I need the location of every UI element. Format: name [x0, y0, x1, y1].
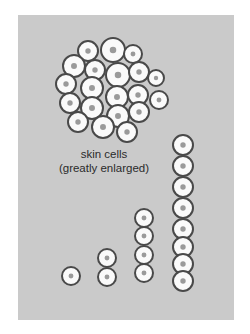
- cluster-cell: [129, 62, 149, 82]
- cell-column-3: [135, 209, 153, 282]
- skin-cell-cluster: [56, 38, 168, 142]
- nucleus-icon: [136, 109, 141, 114]
- nucleus-icon: [100, 124, 106, 130]
- nucleus-icon: [63, 81, 68, 86]
- column-cell: [173, 198, 193, 218]
- nucleus-icon: [131, 52, 136, 57]
- column-cell: [135, 264, 153, 282]
- nucleus-icon: [180, 244, 185, 249]
- nucleus-icon: [135, 92, 140, 97]
- column-cell: [173, 135, 193, 155]
- nucleus-icon: [180, 261, 185, 266]
- nucleus-icon: [110, 47, 116, 53]
- cluster-cell: [117, 122, 137, 142]
- column-cell: [98, 268, 116, 286]
- nucleus-icon: [71, 63, 77, 69]
- column-cell: [173, 177, 193, 197]
- nucleus-icon: [85, 48, 90, 53]
- column-cell: [173, 271, 193, 291]
- nucleus-icon: [114, 94, 120, 100]
- nucleus-icon: [180, 205, 185, 210]
- cluster-cell: [60, 93, 80, 113]
- nucleus-icon: [115, 72, 121, 78]
- nucleus-icon: [180, 163, 185, 168]
- cluster-cell: [56, 74, 76, 94]
- nucleus-icon: [142, 216, 147, 221]
- nucleus-icon: [67, 100, 72, 105]
- cell-column-4: [173, 135, 193, 291]
- column-cell: [135, 246, 153, 264]
- column-cell: [135, 227, 153, 245]
- cluster-cell: [150, 91, 168, 109]
- nucleus-icon: [92, 67, 97, 72]
- cluster-cell: [68, 112, 88, 132]
- cluster-cell: [81, 77, 103, 99]
- nucleus-icon: [180, 142, 185, 147]
- nucleus-icon: [115, 113, 121, 119]
- column-cell: [135, 209, 153, 227]
- caption-skin-cells: skin cells: [38, 148, 170, 161]
- nucleus-icon: [180, 278, 185, 283]
- cluster-cell: [101, 38, 125, 62]
- cell-column-1: [62, 267, 80, 285]
- cluster-cell: [129, 102, 149, 122]
- nucleus-icon: [89, 85, 95, 91]
- nucleus-icon: [180, 226, 185, 231]
- cluster-cell: [148, 70, 164, 86]
- nucleus-icon: [89, 105, 95, 111]
- nucleus-icon: [75, 119, 80, 124]
- column-cell: [173, 156, 193, 176]
- nucleus-icon: [69, 274, 74, 279]
- nucleus-icon: [105, 256, 110, 261]
- nucleus-icon: [154, 76, 158, 80]
- cluster-cell: [106, 63, 130, 87]
- nucleus-icon: [180, 184, 185, 189]
- caption-greatly-enlarged: (greatly enlarged): [38, 162, 170, 175]
- cluster-cell: [92, 116, 114, 138]
- nucleus-icon: [157, 98, 162, 103]
- column-cell: [62, 267, 80, 285]
- nucleus-icon: [142, 234, 147, 239]
- nucleus-icon: [142, 253, 147, 258]
- nucleus-icon: [105, 275, 110, 280]
- cell-column-2: [98, 249, 116, 286]
- nucleus-icon: [142, 271, 147, 276]
- cluster-cell: [124, 45, 142, 63]
- nucleus-icon: [136, 69, 141, 74]
- nucleus-icon: [124, 129, 129, 134]
- column-cell: [98, 249, 116, 267]
